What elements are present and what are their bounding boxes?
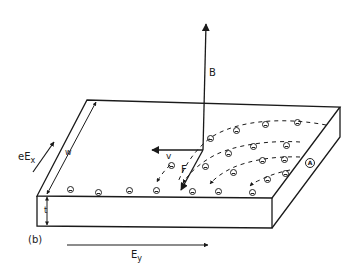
slab-top-face bbox=[37, 100, 340, 198]
hall-effect-diagram bbox=[0, 0, 360, 275]
velocity-label: v bbox=[166, 152, 171, 161]
electron bbox=[168, 162, 175, 169]
electric-field-y-label: Ey bbox=[131, 250, 142, 260]
trajectory-1 bbox=[178, 121, 326, 182]
slab-right-face bbox=[272, 107, 340, 228]
electron bbox=[225, 150, 232, 157]
hole-marker: A bbox=[305, 158, 315, 168]
electron bbox=[262, 121, 269, 128]
electron bbox=[281, 156, 288, 163]
electron bbox=[249, 189, 256, 196]
slab-front-face bbox=[37, 196, 272, 228]
electron bbox=[126, 187, 133, 194]
electron bbox=[283, 142, 290, 149]
force-label: F bbox=[181, 165, 187, 175]
electric-field-y-sub: y bbox=[137, 254, 142, 263]
electric-force-x-main: eE bbox=[18, 151, 30, 162]
magnetic-field-label: B bbox=[209, 68, 216, 78]
electron bbox=[294, 119, 301, 126]
electron bbox=[207, 135, 214, 142]
electron bbox=[259, 157, 266, 164]
electron bbox=[250, 143, 257, 150]
electron bbox=[282, 170, 289, 177]
magnetic-field-arrow bbox=[203, 24, 206, 150]
electric-force-x-arrow bbox=[33, 142, 54, 172]
electron bbox=[215, 188, 222, 195]
electron bbox=[233, 127, 240, 134]
thickness-label: t bbox=[44, 207, 47, 215]
width-label: w bbox=[65, 149, 72, 157]
panel-label: (b) bbox=[28, 235, 42, 245]
electron bbox=[264, 176, 271, 183]
electron bbox=[202, 163, 209, 170]
electron bbox=[95, 189, 102, 196]
electric-force-x-label: eEx bbox=[18, 152, 35, 162]
electron bbox=[189, 188, 196, 195]
electron bbox=[230, 169, 237, 176]
electron-trajectories bbox=[157, 121, 326, 186]
electron bbox=[153, 187, 160, 194]
electron bbox=[67, 186, 74, 193]
electric-force-x-sub: x bbox=[30, 156, 35, 165]
